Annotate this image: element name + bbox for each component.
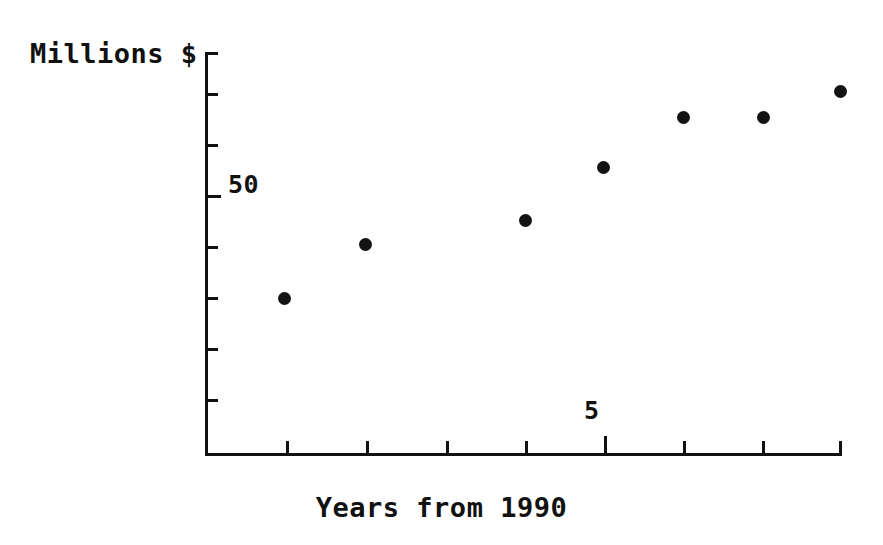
y-axis-tick-label: 50 (228, 170, 259, 199)
x-axis-tick (762, 441, 765, 454)
y-axis-tick (205, 399, 218, 402)
x-axis-title: Years from 1990 (0, 492, 883, 523)
y-axis-title: Millions $ (30, 38, 198, 69)
y-axis-tick (205, 348, 218, 351)
y-axis-tick (205, 52, 218, 55)
x-axis-tick (286, 441, 289, 454)
data-point-marker (278, 292, 291, 305)
y-axis-tick (205, 144, 218, 147)
x-axis-line (205, 453, 842, 456)
data-point-marker (359, 238, 372, 251)
x-axis-tick (446, 441, 449, 454)
data-point-marker (757, 111, 770, 124)
x-axis-tick (366, 441, 369, 454)
x-axis-tick (604, 436, 607, 454)
y-axis-tick (205, 297, 218, 300)
data-point-marker (597, 161, 610, 174)
y-axis-tick (205, 93, 218, 96)
y-axis-line (205, 52, 208, 456)
x-axis-tick-label: 5 (584, 396, 600, 425)
y-axis-tick (205, 246, 218, 249)
y-axis-tick (205, 195, 221, 198)
data-point-marker (677, 111, 690, 124)
data-point-marker (834, 85, 847, 98)
x-axis-tick (525, 441, 528, 454)
data-point-marker (519, 214, 532, 227)
scatter-plot-figure: Millions $ Years from 1990 50 5 (0, 0, 883, 545)
x-axis-tick (683, 441, 686, 454)
x-axis-tick (839, 441, 842, 454)
